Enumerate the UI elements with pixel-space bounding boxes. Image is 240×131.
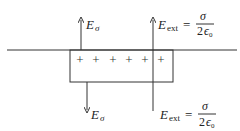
field-diagram: + + + + + + E σ E ext = σ 2 ϵ 0 E σ E ex… — [0, 0, 240, 131]
plus-charge: + — [141, 52, 148, 67]
plus-charge: + — [157, 52, 164, 67]
ext-subscript: ext — [169, 113, 180, 123]
fraction-coef: 2 — [197, 24, 203, 38]
e-sigma-top-label: E σ — [85, 17, 100, 33]
fraction-coef: 2 — [199, 115, 205, 129]
fraction-numerator: σ — [202, 99, 209, 113]
ext-subscript: ext — [167, 23, 178, 33]
e-sigma-bottom-label: E σ — [90, 107, 105, 123]
plus-charge: + — [76, 52, 83, 67]
fraction-numerator: σ — [200, 9, 207, 23]
equals-sign: = — [183, 17, 190, 32]
e-symbol: E — [90, 107, 99, 122]
e-symbol: E — [157, 17, 166, 32]
e-ext-bottom-label: E ext = σ 2 ϵ 0 — [159, 99, 216, 130]
plus-charge: + — [125, 52, 132, 67]
equals-sign: = — [185, 107, 192, 122]
e-ext-top-label: E ext = σ 2 ϵ 0 — [157, 9, 214, 39]
e-symbol: E — [85, 17, 94, 32]
plus-charge: + — [92, 52, 99, 67]
epsilon-subscript: 0 — [209, 31, 213, 39]
sigma-subscript: σ — [100, 113, 105, 123]
sigma-subscript: σ — [95, 23, 100, 33]
e-symbol: E — [159, 107, 168, 122]
charge-row: + + + + + + — [76, 52, 164, 67]
epsilon-subscript: 0 — [211, 122, 215, 130]
plus-charge: + — [109, 52, 116, 67]
